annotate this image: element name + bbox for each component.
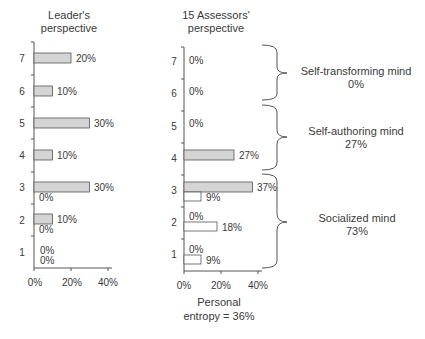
- left-bar-6: [34, 86, 53, 96]
- right-level-4: 4: [171, 153, 177, 164]
- brace-self-authoring: [262, 105, 287, 170]
- right-open-label-1: 9%: [206, 255, 221, 266]
- right-x-axis: 0% 20% 40%: [177, 271, 268, 291]
- group-label-self-transforming: Self-transforming mind: [301, 65, 412, 77]
- right-level-2: 2: [171, 217, 177, 228]
- group-braces: [262, 45, 287, 268]
- entropy-label-line1: Personal: [197, 296, 240, 308]
- right-open-bar-3: [184, 192, 201, 201]
- right-bar-label-5: 0%: [189, 118, 204, 129]
- left-level-2: 2: [19, 215, 25, 226]
- group-labels: Self-transforming mind 0% Self-authoring…: [301, 65, 412, 237]
- left-bar-7: [34, 53, 71, 63]
- left-bar-label-5: 30%: [94, 118, 114, 129]
- brace-self-transforming: [262, 45, 287, 100]
- right-level-1: 1: [171, 249, 177, 260]
- right-bar-label-4: 27%: [239, 150, 259, 161]
- right-y-axis: [181, 47, 184, 271]
- right-bar-4: [184, 150, 234, 160]
- group-value-socialized: 73%: [346, 225, 368, 237]
- group-label-socialized: Socialized mind: [318, 212, 395, 224]
- group-value-self-transforming: 0%: [348, 78, 364, 90]
- right-bar-label-7: 0%: [189, 55, 204, 66]
- right-xtick-0: 0%: [177, 280, 192, 291]
- left-y-axis: [31, 42, 34, 268]
- left-level-4: 4: [19, 150, 25, 161]
- left-open-label-1: 0%: [40, 255, 55, 266]
- right-bar-label-3: 37%: [257, 182, 277, 193]
- right-chart-title-line2: perspective: [188, 22, 244, 34]
- left-bar-3: [34, 182, 90, 192]
- left-level-3: 3: [19, 182, 25, 193]
- chart-canvas: Leader's perspective 0% 20% 40% 7 6 5 4 …: [0, 0, 425, 339]
- right-xtick-40: 40%: [248, 280, 268, 291]
- right-bar-label-1: 0%: [189, 244, 204, 255]
- right-open-bar-2: [184, 222, 217, 231]
- left-chart: Leader's perspective 0% 20% 40% 7 6 5 4 …: [19, 9, 118, 288]
- left-xtick-20: 20%: [62, 277, 82, 288]
- left-open-label-3: 0%: [39, 192, 54, 203]
- left-chart-title-line2: perspective: [41, 22, 97, 34]
- right-chart-title-line1: 15 Assessors': [182, 9, 250, 21]
- left-open-label-2: 0%: [39, 224, 54, 235]
- left-level-5: 5: [19, 118, 25, 129]
- left-level-7: 7: [19, 53, 25, 64]
- left-level-6: 6: [19, 86, 25, 97]
- right-level-6: 6: [171, 88, 177, 99]
- left-level-1: 1: [19, 247, 25, 258]
- right-xtick-20: 20%: [211, 280, 231, 291]
- entropy-label-line2: entropy = 36%: [183, 310, 254, 322]
- left-bar-4: [34, 150, 53, 160]
- left-bar-2: [34, 214, 53, 224]
- left-chart-title-line1: Leader's: [48, 9, 90, 21]
- right-bar-label-2: 0%: [189, 211, 204, 222]
- left-bar-label-2: 10%: [57, 214, 77, 225]
- group-value-self-authoring: 27%: [345, 138, 367, 150]
- right-open-label-2: 18%: [222, 222, 242, 233]
- right-level-5: 5: [171, 121, 177, 132]
- left-xtick-40: 40%: [98, 277, 118, 288]
- left-xtick-0: 0%: [28, 277, 43, 288]
- right-bar-label-6: 0%: [189, 86, 204, 97]
- right-open-label-3: 9%: [206, 192, 221, 203]
- right-open-bar-1: [184, 255, 201, 264]
- left-bar-label-7: 20%: [76, 53, 96, 64]
- left-bar-label-4: 10%: [57, 150, 77, 161]
- left-x-axis: 0% 20% 40%: [28, 268, 118, 288]
- group-label-self-authoring: Self-authoring mind: [308, 125, 403, 137]
- right-level-7: 7: [171, 56, 177, 67]
- left-bar-label-3: 30%: [94, 182, 114, 193]
- left-bar-5: [34, 118, 90, 128]
- right-bar-3: [184, 182, 253, 192]
- left-bar-label-6: 10%: [57, 86, 77, 97]
- right-level-3: 3: [171, 185, 177, 196]
- right-chart: 15 Assessors' perspective 0% 20% 40% 7 6…: [171, 9, 277, 322]
